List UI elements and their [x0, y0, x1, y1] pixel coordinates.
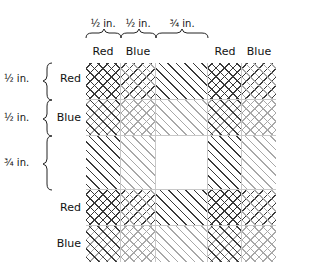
- top-brace-1: [86, 29, 121, 38]
- plaid-cell-r5-c4: [208, 226, 242, 262]
- plaid-cell-r4-c1: [86, 190, 121, 226]
- plaid-cell-r5-c5: [242, 226, 276, 262]
- top-brace-2: [121, 29, 156, 38]
- plaid-cell-r2-c5: [242, 100, 276, 136]
- plaid-cell-r2-c3: [156, 100, 208, 136]
- plaid-cell-r4-c2: [121, 190, 156, 226]
- plaid-cell-r2-c2: [121, 100, 156, 136]
- plaid-cell-r5-c2: [121, 226, 156, 262]
- plaid-cell-r4-c5: [242, 190, 276, 226]
- plaid-cell-r3-c5: [242, 136, 276, 190]
- plaid-cell-r3-c3: [156, 136, 208, 190]
- plaid-cell-r1-c4: [208, 63, 242, 100]
- plaid-cell-r1-c2: [121, 63, 156, 100]
- plaid-cell-r2-c1: [86, 100, 121, 136]
- plaid-cell-r5-c1: [86, 226, 121, 262]
- left-brace-3: [43, 136, 52, 190]
- plaid-cell-r5-c3: [156, 226, 208, 262]
- plaid-cell-r3-c1: [86, 136, 121, 190]
- plaid-cell-r1-c1: [86, 63, 121, 100]
- left-brace-1: [43, 63, 52, 100]
- plaid-cell-r4-c4: [208, 190, 242, 226]
- plaid-cell-r2-c4: [208, 100, 242, 136]
- top-brace-3: [156, 29, 208, 38]
- left-brace-2: [43, 100, 52, 136]
- plaid-grid: [86, 63, 276, 262]
- plaid-cell-r4-c3: [156, 190, 208, 226]
- plaid-cell-r1-c3: [156, 63, 208, 100]
- plaid-cell-r1-c5: [242, 63, 276, 100]
- plaid-cell-r3-c4: [208, 136, 242, 190]
- plaid-cell-r3-c2: [121, 136, 156, 190]
